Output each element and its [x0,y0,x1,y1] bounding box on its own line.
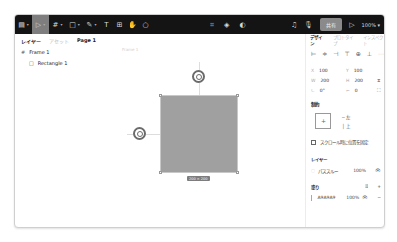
move-tool-button[interactable]: ▷▾ [32,15,49,34]
tab-prototype[interactable]: プロトタイプ [333,34,356,46]
canvas[interactable]: Frame 1 200 × 200 [115,34,305,228]
contrast-button[interactable]: ◐ [239,15,245,34]
present-button[interactable]: ▷ [349,15,354,34]
align-right-icon[interactable]: ⊣ [333,50,338,57]
align-center-icon[interactable]: ≑ [322,50,327,57]
layer-item-frame[interactable]: # Frame 1 [15,46,115,57]
fix-scroll-checkbox[interactable] [311,140,316,145]
toolbar: ▤▾ ▷▾ #▾ □▾ ✎▾ T ⊞ ✋ ○ ⌗ ◈ ◐ ♫ 🎙 共有 ▷ 10… [15,15,384,34]
styles-icon[interactable]: ⠿ [365,184,368,189]
left-panel-tabs: レイヤー アセット [15,34,115,46]
fill-opacity[interactable]: 100% [346,195,359,200]
size-row: W200 H200 ⧗ [306,75,385,85]
rotation-field[interactable]: ∟0° [311,88,346,93]
pen-icon: ✎ [87,21,93,29]
resources-tool-button[interactable]: ⊞ [113,15,126,34]
fix-scroll-row[interactable]: スクロール時に位置を固定 [306,136,385,148]
fill-hex[interactable]: A9A9A9 [318,195,336,200]
layer-opacity[interactable]: 100% [353,168,366,173]
text-icon: T [104,21,108,29]
fill-row: A9A9A9 100% 👁 − [306,192,385,203]
share-button[interactable]: 共有 [320,18,342,31]
cursor-icon: ▷ [36,21,41,29]
right-tools: ♫ 🎙 共有 ▷ 100% ▾ [291,15,380,34]
width-field[interactable]: W200 [311,78,346,83]
figma-window: ▤▾ ▷▾ #▾ □▾ ✎▾ T ⊞ ✋ ○ ⌗ ◈ ◐ ♫ 🎙 共有 ▷ 10… [14,14,385,228]
constrain-proportions-icon[interactable]: ⧗ [377,77,381,84]
layer-name: Rectangle 1 [38,60,68,66]
independent-corners-icon[interactable]: ⛶ [377,87,381,94]
rectangle-icon: □ [29,60,34,66]
spacing-handle-top[interactable] [192,70,205,83]
align-left-icon[interactable]: ⊨ [311,50,316,57]
left-tools: ▤▾ ▷▾ #▾ □▾ ✎▾ T ⊞ ✋ ○ [15,15,152,34]
alignment-toolbar: ⊨ ≑ ⊣ ⊤ ⊕ ⊥ ⋯ [306,46,385,61]
resize-handle[interactable] [236,94,239,97]
text-tool-button[interactable]: T [100,15,113,34]
shape-tool-button[interactable]: □▾ [66,15,83,34]
corner-radius-field[interactable]: ⌐0 [346,88,381,93]
contrast-icon: ◐ [239,21,245,29]
layer-item-rectangle[interactable]: □ Rectangle 1 [15,57,115,68]
microphone-icon: 🎙 [304,21,313,29]
frame-icon: # [53,21,59,29]
fill-header: 塗り ⠿ + [306,181,385,192]
blend-icon: ◌ [311,168,315,173]
constraints-widget: ─ 左 │ 上 [306,110,385,136]
hand-tool-button[interactable]: ✋ [126,15,139,34]
rectangle-1[interactable] [160,95,238,173]
audio-button[interactable]: 🎙 [304,15,313,34]
tab-assets[interactable]: アセット [49,37,69,44]
mask-icon: ◈ [224,21,229,29]
align-top-icon[interactable]: ⊤ [345,50,350,57]
page-selector[interactable]: Page 1 [77,37,96,43]
layer-section-title: レイヤー [306,148,385,165]
headphones-icon: ♫ [291,21,297,29]
horizontal-constraint[interactable]: ─ 左 [342,113,350,122]
chevron-down-icon: ▾ [377,22,380,28]
frame-label[interactable]: Frame 1 [122,47,138,52]
eye-icon[interactable]: 👁 [375,168,381,173]
menu-icon: ▤ [18,21,25,29]
component-icon: ⌗ [210,21,214,29]
layer-name: Frame 1 [29,49,49,55]
properties-panel: デザイン プロトタイプ インスペクト ⊨ ≑ ⊣ ⊤ ⊕ ⊥ ⋯ X100 Y1… [305,34,385,228]
center-tools: ⌗ ◈ ◐ [210,15,246,34]
comment-tool-button[interactable]: ○ [139,15,152,34]
blend-mode-select[interactable]: パススルー [318,168,338,174]
rectangle-icon: □ [69,21,76,29]
multiplayer-button[interactable]: ♫ [291,15,297,34]
frame-tool-button[interactable]: #▾ [49,15,66,34]
dimension-label: 200 × 200 [187,176,210,181]
zoom-dropdown[interactable]: 100% ▾ [362,22,380,28]
tab-layers[interactable]: レイヤー [21,37,41,44]
resize-handle[interactable] [159,171,162,174]
constraint-box[interactable] [315,113,331,129]
pen-tool-button[interactable]: ✎▾ [83,15,100,34]
align-middle-icon[interactable]: ⊕ [356,50,361,57]
rotation-row: ∟0° ⌐0 ⛶ [306,85,385,95]
mask-button[interactable]: ◈ [224,15,229,34]
position-row: X100 Y100 [306,65,385,75]
x-field[interactable]: X100 [311,68,346,73]
distribute-icon[interactable]: ⋯ [378,50,384,57]
layers-panel: レイヤー アセット Page 1 # Frame 1 □ Rectangle 1 [15,34,115,228]
spacing-handle-left[interactable] [133,127,146,140]
fill-swatch[interactable] [311,195,312,201]
height-field[interactable]: H200 [346,78,381,83]
main-menu-button[interactable]: ▤▾ [15,15,32,34]
resize-handle[interactable] [159,94,162,97]
play-icon: ▷ [349,21,354,29]
align-bottom-icon[interactable]: ⊥ [367,50,372,57]
vertical-constraint[interactable]: │ 上 [342,122,350,131]
eye-icon[interactable]: 👁 [362,195,368,200]
tab-design[interactable]: デザイン [310,34,326,46]
component-button[interactable]: ⌗ [210,15,214,34]
layer-blend-row: ◌ パススルー 100% 👁 [306,165,385,176]
remove-fill-icon[interactable]: − [377,195,381,200]
resize-handle[interactable] [236,171,239,174]
right-panel-tabs: デザイン プロトタイプ インスペクト [306,34,385,46]
tab-inspect[interactable]: インスペクト [363,34,385,46]
y-field[interactable]: Y100 [346,68,381,73]
add-fill-icon[interactable]: + [377,184,381,189]
